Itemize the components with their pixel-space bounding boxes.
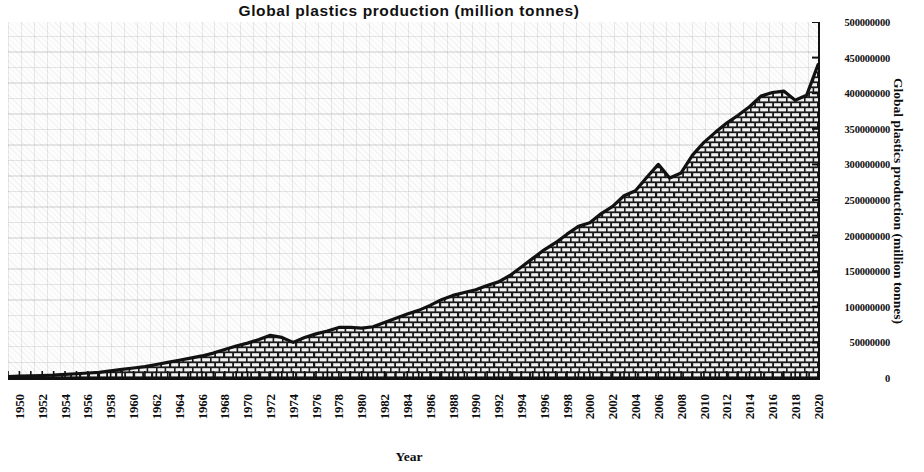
- x-tick-label: 1968: [218, 394, 234, 419]
- x-tick-label: 1974: [286, 394, 302, 419]
- x-axis-tick-labels: 1950195219541956195819601962196419661968…: [0, 382, 924, 444]
- x-tick-label: 1980: [355, 394, 371, 419]
- chart-page: Global plastics production (million tonn…: [0, 0, 924, 472]
- plot-area: [8, 22, 818, 378]
- x-tick-label: 1990: [469, 394, 485, 419]
- x-tick-label: 1982: [377, 394, 393, 419]
- x-tick-label: 1966: [195, 394, 211, 419]
- x-tick-label: 1988: [446, 394, 462, 419]
- x-tick-label: 1984: [400, 394, 416, 419]
- x-tick-label: 2002: [606, 394, 622, 419]
- x-tick-label: 2008: [674, 394, 690, 419]
- area-chart-svg: [8, 22, 818, 378]
- x-tick-label: 2004: [628, 394, 644, 419]
- area-fill: [8, 65, 818, 378]
- x-tick-label: 1972: [263, 394, 279, 419]
- x-tick-label: 1956: [81, 394, 97, 419]
- x-tick-label: 2016: [765, 394, 781, 419]
- x-tick-label: 1994: [514, 394, 530, 419]
- x-tick-label: 1964: [172, 394, 188, 419]
- x-axis-title: Year: [0, 449, 818, 465]
- y-axis-ticks: [812, 22, 820, 380]
- x-axis-ticks: [8, 371, 820, 378]
- x-tick-label: 2014: [743, 394, 759, 419]
- x-tick-label: 1976: [309, 394, 325, 419]
- x-tick-label: 1996: [537, 394, 553, 419]
- x-tick-label: 1952: [35, 394, 51, 419]
- x-tick-label: 2012: [720, 394, 736, 419]
- x-tick-label: 1958: [104, 394, 120, 419]
- x-tick-label: 1998: [560, 394, 576, 419]
- x-tick-label: 1992: [492, 394, 508, 419]
- x-tick-label: 2000: [583, 394, 599, 419]
- x-tick-label: 1962: [149, 394, 165, 419]
- y-axis-title: Global plastics production (million tonn…: [884, 22, 912, 380]
- x-tick-label: 2020: [811, 394, 827, 419]
- x-tick-label: 1970: [241, 394, 257, 419]
- x-tick-label: 2006: [651, 394, 667, 419]
- x-tick-label: 1950: [12, 394, 28, 419]
- x-tick-label: 2010: [697, 394, 713, 419]
- chart-title: Global plastics production (million tonn…: [0, 2, 818, 20]
- x-tick-label: 1978: [332, 394, 348, 419]
- x-tick-label: 1960: [126, 394, 142, 419]
- x-tick-label: 2018: [788, 394, 804, 419]
- x-tick-label: 1986: [423, 394, 439, 419]
- x-tick-label: 1954: [58, 394, 74, 419]
